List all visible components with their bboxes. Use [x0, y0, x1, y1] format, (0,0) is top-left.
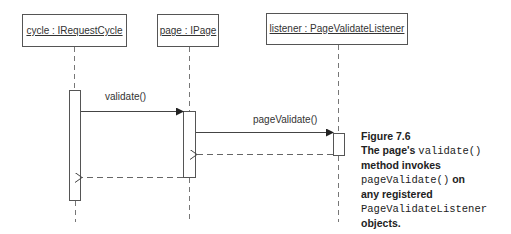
caption-text: The page's [361, 144, 418, 156]
message-validate-label: validate() [105, 91, 146, 102]
caption-line-3: pageValidate() on [361, 172, 511, 187]
object-listener: listener : PageValidateListener [267, 14, 408, 45]
object-cycle: cycle : IRequestCycle [23, 15, 127, 47]
figure-caption: Figure 7.6 The page's validate() method … [361, 129, 511, 230]
caption-line-1: The page's validate() [361, 143, 511, 158]
object-page: page : IPage [158, 15, 219, 47]
caption-line-4: any registered [361, 187, 511, 201]
message-pagevalidate: pageValidate() [196, 114, 333, 133]
object-cycle-label: cycle : IRequestCycle [26, 25, 123, 36]
caption-code: PageValidateListener [361, 203, 487, 215]
message-validate: validate() [81, 91, 183, 112]
caption-line-2: method invokes [361, 158, 511, 172]
caption-text: on [449, 173, 465, 185]
caption-line-5: PageValidateListener [361, 201, 511, 216]
activation-listener [334, 134, 345, 156]
caption-code: pageValidate() [361, 174, 449, 186]
object-page-label: page : IPage [160, 25, 217, 36]
object-listener-label: listener : PageValidateListener [270, 23, 406, 34]
message-pagevalidate-label: pageValidate() [253, 114, 317, 125]
activation-page [184, 112, 196, 178]
caption-code: validate() [418, 145, 481, 157]
caption-line-6: objects. [361, 216, 511, 230]
figure-number: Figure 7.6 [361, 129, 511, 143]
activation-cycle [70, 91, 81, 201]
